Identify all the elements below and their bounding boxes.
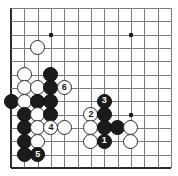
grid-line-horizontal bbox=[11, 167, 171, 169]
move-number-label: 4 bbox=[48, 123, 53, 132]
grid-line-vertical bbox=[171, 8, 172, 168]
star-point bbox=[129, 113, 133, 117]
white-stone bbox=[30, 40, 45, 55]
white-stone bbox=[123, 134, 138, 149]
stone-move-6: 6 bbox=[57, 80, 72, 95]
grid-line-horizontal bbox=[11, 21, 171, 22]
star-point bbox=[49, 33, 53, 37]
move-number-label: 5 bbox=[35, 150, 40, 159]
move-number-label: 2 bbox=[88, 110, 93, 119]
grid-line-horizontal bbox=[11, 75, 171, 76]
go-board-diagram: 632415 bbox=[0, 0, 178, 176]
move-number-label: 6 bbox=[62, 83, 67, 92]
stone-move-1: 1 bbox=[97, 134, 112, 149]
move-number-label: 3 bbox=[102, 96, 107, 105]
grid-line-horizontal bbox=[11, 8, 171, 9]
grid-line-horizontal bbox=[11, 35, 171, 36]
grid-line-horizontal bbox=[11, 61, 171, 62]
white-stone bbox=[57, 120, 72, 135]
star-point bbox=[129, 33, 133, 37]
stone-move-5: 5 bbox=[30, 147, 45, 162]
move-number-label: 1 bbox=[102, 136, 107, 145]
